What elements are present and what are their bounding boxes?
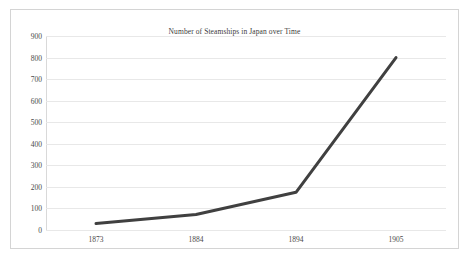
line-series bbox=[46, 36, 446, 230]
x-tick-label: 1884 bbox=[189, 235, 204, 244]
chart-title: Number of Steamships in Japan over Time bbox=[11, 27, 458, 36]
y-tick-label: 800 bbox=[12, 53, 42, 62]
x-tick-label: 1894 bbox=[289, 235, 304, 244]
y-tick-label: 600 bbox=[12, 96, 42, 105]
y-tick-label: 900 bbox=[12, 32, 42, 41]
y-axis-tick-labels: 0100200300400500600700800900 bbox=[11, 36, 42, 230]
gridline bbox=[46, 230, 446, 231]
chart-container: Number of Steamships in Japan over Time … bbox=[10, 9, 459, 249]
y-tick-label: 200 bbox=[12, 182, 42, 191]
y-tick-label: 0 bbox=[12, 226, 42, 235]
plot-area bbox=[46, 36, 446, 230]
y-tick-label: 700 bbox=[12, 75, 42, 84]
x-axis-tick-labels: 1873188418941905 bbox=[11, 235, 458, 249]
x-tick-label: 1905 bbox=[389, 235, 404, 244]
x-tick-label: 1873 bbox=[89, 235, 104, 244]
series-polyline bbox=[96, 58, 396, 224]
y-tick-label: 400 bbox=[12, 139, 42, 148]
y-tick-label: 500 bbox=[12, 118, 42, 127]
y-tick-label: 300 bbox=[12, 161, 42, 170]
y-tick-label: 100 bbox=[12, 204, 42, 213]
